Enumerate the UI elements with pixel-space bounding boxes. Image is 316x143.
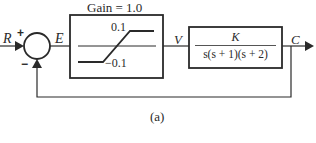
input-label-r: R [3,32,12,46]
error-label-e: E [55,32,64,46]
saturation-upper-limit-label: 0.1 [111,21,126,33]
block-diagram: R + − E Gain = 1.0 0.1 −0.1 V K s(s + 1)… [0,0,316,143]
figure-caption: (a) [150,110,164,123]
saturation-gain-title: Gain = 1.0 [87,1,142,14]
saturation-lower-limit-label: −0.1 [105,57,127,69]
transfer-function-numerator: K [190,29,281,45]
feedback-arrowhead-icon [32,59,42,68]
plus-sign: + [17,27,24,39]
plant-transfer-function: K s(s + 1)(s + 2) [190,29,281,63]
output-arrowhead-icon [305,41,314,51]
minus-sign: − [21,58,28,70]
input-arrowhead-icon [15,41,24,51]
output-label-c: C [291,33,300,46]
summing-junction [24,33,50,59]
v-signal-label: V [174,33,182,46]
transfer-function-denominator: s(s + 1)(s + 2) [190,46,281,63]
